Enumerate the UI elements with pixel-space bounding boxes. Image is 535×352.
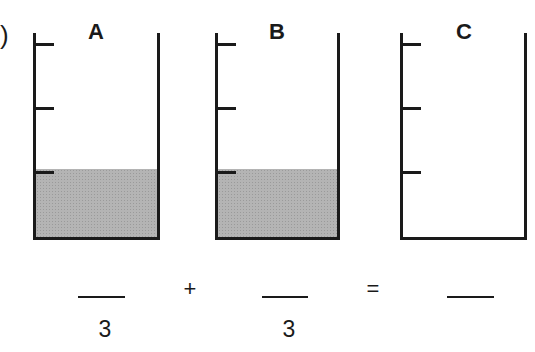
beaker-label-a: A <box>81 19 111 45</box>
beaker-b: B <box>215 33 340 240</box>
liquid-fill <box>36 169 157 237</box>
denominator-b: 3 <box>274 316 304 343</box>
tick-mark <box>218 107 236 110</box>
plus-sign: + <box>178 276 202 302</box>
tick-mark <box>218 171 236 174</box>
equals-sign: = <box>361 276 385 302</box>
beaker-label-b: B <box>262 19 292 45</box>
liquid-fill <box>218 169 337 237</box>
beaker-label-c: C <box>449 19 479 45</box>
numerator-blank-a[interactable] <box>78 296 125 298</box>
beaker-c: C <box>400 33 527 240</box>
tick-mark <box>36 107 54 110</box>
beaker-a: A <box>33 33 160 240</box>
tick-mark <box>36 43 54 46</box>
tick-mark <box>403 43 421 46</box>
tick-mark <box>403 107 421 110</box>
numerator-blank-b[interactable] <box>262 296 308 298</box>
problem-marker: ) <box>0 22 9 48</box>
tick-mark <box>218 43 236 46</box>
tick-mark <box>403 171 421 174</box>
denominator-a: 3 <box>90 316 120 343</box>
tick-mark <box>36 171 54 174</box>
result-blank[interactable] <box>447 296 494 298</box>
